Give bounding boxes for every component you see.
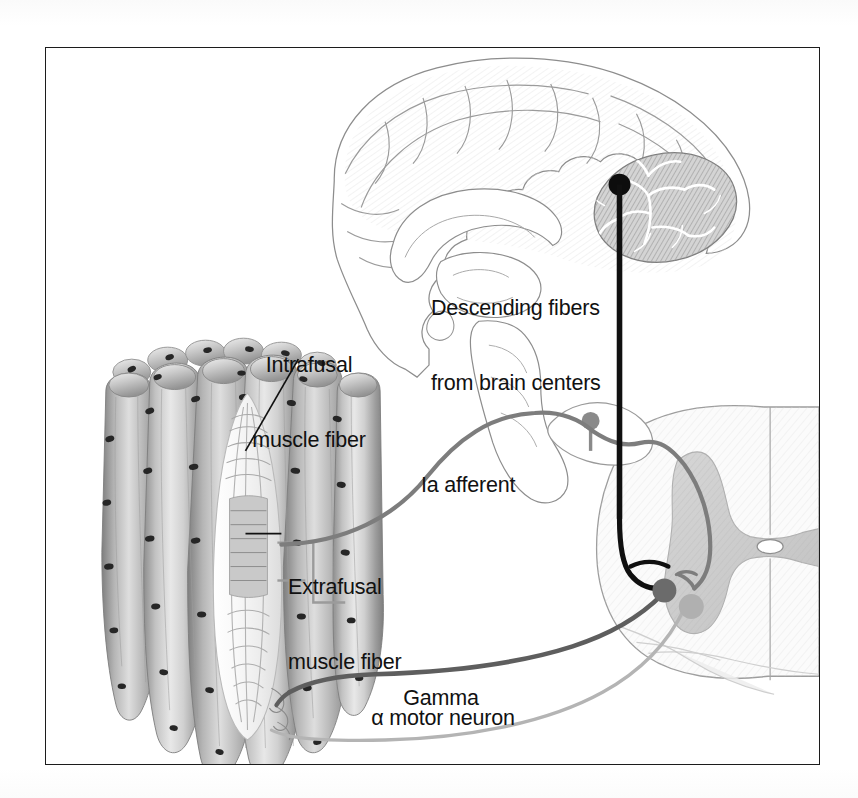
label-descending-line1: Descending fibers bbox=[431, 296, 656, 321]
label-gamma-motor-neuron: Gamma motor neuron bbox=[341, 636, 541, 765]
label-gamma-line2: motor neuron bbox=[341, 761, 541, 765]
scan-bleed-bottom bbox=[0, 768, 858, 798]
label-extrafusal-line1: Extrafusal bbox=[288, 575, 468, 600]
label-intrafusal-line1: Intrafusal bbox=[214, 353, 404, 378]
label-intrafusal-line2: muscle fiber bbox=[214, 428, 404, 453]
scan-bleed-top bbox=[0, 0, 858, 26]
central-canal bbox=[757, 540, 783, 554]
label-descending-line2: from brain centers bbox=[431, 371, 656, 396]
label-alpha-motor-neuron: α motor neuron bbox=[338, 706, 548, 731]
gamma-motor-neuron-soma bbox=[652, 579, 676, 603]
nuclear-bag-region bbox=[230, 496, 268, 598]
label-descending-fibers: Descending fibers from brain centers bbox=[431, 246, 656, 446]
figure-panel: Intrafusal muscle fiber Extrafusal muscl… bbox=[45, 47, 820, 765]
label-ia-afferent: Ia afferent bbox=[421, 473, 591, 498]
spinal-cord-illustration bbox=[548, 403, 819, 694]
label-intrafusal-muscle-fiber: Intrafusal muscle fiber bbox=[214, 303, 404, 503]
alpha-motor-neuron-soma bbox=[679, 594, 704, 619]
